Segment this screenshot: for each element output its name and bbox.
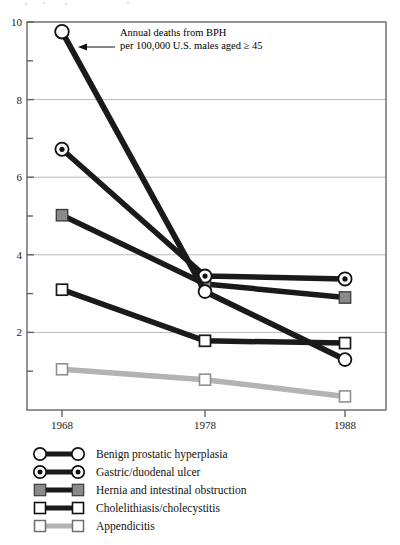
data-marker (199, 285, 212, 298)
data-marker (56, 210, 67, 221)
legend-label: Gastric/duodenal ulcer (88, 463, 200, 481)
y-tick-label: 6 (17, 171, 23, 183)
y-tick-label: 4 (17, 249, 23, 261)
y-tick-label: 8 (17, 94, 23, 106)
legend: Benign prostatic hyperplasia Gastric/duo… (30, 445, 400, 535)
data-marker (340, 338, 351, 349)
data-marker (339, 353, 352, 366)
gray-square-key (30, 481, 88, 499)
dot-circle-key (30, 463, 88, 481)
legend-item-cholelithiasis-cholecystitis: Cholelithiasis/cholecystitis (30, 499, 400, 517)
legend-label: Appendicitis (88, 517, 155, 535)
data-marker (55, 143, 68, 156)
legend-item-gastric-duodenal-ulcer: Gastric/duodenal ulcer (30, 463, 400, 481)
data-marker (57, 284, 68, 295)
gray-line-square-key (30, 517, 88, 535)
data-marker (57, 364, 68, 375)
x-tick-label: 1968 (51, 419, 74, 430)
data-marker (340, 391, 351, 402)
annotation-line-1: Annual deaths from BPH (120, 27, 227, 38)
y-tick-label: 2 (17, 326, 23, 338)
legend-item-benign-prostatic-hyperplasia: Benign prostatic hyperplasia (30, 445, 400, 463)
legend-label: Benign prostatic hyperplasia (88, 445, 228, 463)
plot-area: 10 8 6 4 2 1968 1978 1988 (0, 0, 400, 430)
data-marker (55, 25, 69, 39)
legend-label: Cholelithiasis/cholecystitis (88, 499, 220, 517)
open-square-key (30, 499, 88, 517)
legend-item-hernia-and-intestinal-obstruction: Hernia and intestinal obstruction (30, 481, 400, 499)
x-tick-label: 1978 (194, 419, 217, 430)
figure: 10 8 6 4 2 1968 1978 1988 (0, 0, 400, 545)
y-tick-label: 10 (11, 16, 23, 28)
open-circle-key (30, 445, 88, 463)
legend-label: Hernia and intestinal obstruction (88, 481, 246, 499)
legend-item-appendicitis: Appendicitis (30, 517, 400, 535)
data-marker (339, 292, 350, 303)
x-axis-labels: 1968 1978 1988 (51, 419, 357, 430)
annotation-line-2: per 100,000 U.S. males aged ≥ 45 (120, 40, 263, 51)
y-axis-labels: 10 8 6 4 2 (11, 16, 23, 338)
x-tick-label: 1988 (334, 419, 357, 430)
data-marker (338, 272, 351, 285)
chart-svg: 10 8 6 4 2 1968 1978 1988 (0, 0, 400, 430)
x-axis-ticks (62, 410, 345, 417)
data-marker (200, 335, 211, 346)
data-marker (200, 374, 211, 385)
